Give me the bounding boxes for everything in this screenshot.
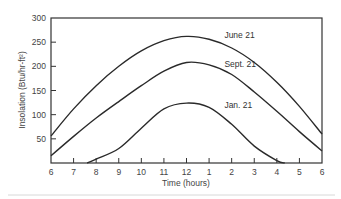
- y-tick-label: 250: [32, 37, 46, 47]
- series-label: Sept. 21: [224, 59, 256, 69]
- x-tick-label: 10: [137, 167, 147, 177]
- x-tick-label: 7: [71, 167, 76, 177]
- y-axis: 50100150200250300: [32, 13, 56, 144]
- y-tick-label: 100: [32, 110, 46, 120]
- series-labels: June 21Sept. 21Jan. 21: [224, 30, 256, 110]
- x-axis: 6789101112123456: [49, 158, 325, 177]
- x-tick-label: 6: [49, 167, 54, 177]
- series-curves: [51, 36, 322, 163]
- insolation-chart: 50100150200250300 6789101112123456 June …: [0, 0, 341, 199]
- y-tick-label: 300: [32, 13, 46, 23]
- x-tick-label: 8: [94, 167, 99, 177]
- y-tick-label: 50: [37, 134, 47, 144]
- y-tick-label: 200: [32, 61, 46, 71]
- y-tick-label: 150: [32, 86, 46, 96]
- x-tick-label: 5: [297, 167, 302, 177]
- x-tick-label: 1: [207, 167, 212, 177]
- x-tick-label: 3: [252, 167, 257, 177]
- x-tick-label: 6: [320, 167, 325, 177]
- x-tick-label: 11: [160, 167, 169, 177]
- x-tick-label: 4: [274, 167, 279, 177]
- x-tick-label: 12: [182, 167, 192, 177]
- curve-sept-21: [51, 62, 322, 156]
- series-label: June 21: [224, 30, 255, 40]
- x-tick-label: 9: [116, 167, 121, 177]
- series-label: Jan. 21: [224, 100, 252, 110]
- y-axis-title: Insolation (Btu/hr-ft²): [17, 51, 27, 129]
- x-tick-label: 2: [229, 167, 234, 177]
- curve-jan-21: [87, 103, 285, 163]
- x-axis-title: Time (hours): [162, 178, 210, 188]
